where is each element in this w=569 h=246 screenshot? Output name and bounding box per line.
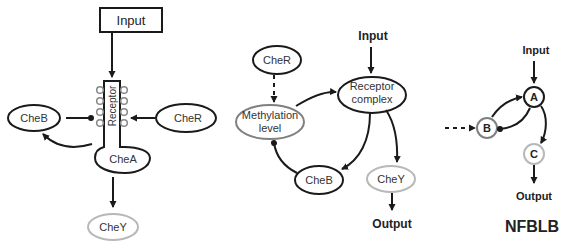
a-to-c-edge [541, 106, 546, 143]
panel-1: Input Receptor CheA CheB CheR [8, 8, 216, 240]
output-label-2: Output [372, 217, 411, 231]
cher-node-2: CheR [253, 46, 301, 74]
a-inhibit-b-edge [500, 108, 530, 129]
receptor-label: Receptor [107, 85, 118, 126]
receptor-label-2a: Receptor [350, 80, 395, 92]
b-to-a-edge [492, 97, 522, 117]
methylation-label-b: level [259, 122, 282, 134]
cher-label: CheR [174, 112, 202, 124]
output-label-3: Output [516, 190, 552, 202]
cheb-node: CheB [8, 105, 60, 131]
nfblb-title: NFBLB [505, 218, 559, 235]
cheb-label-2: CheB [305, 174, 333, 186]
receptor: Receptor CheA [95, 81, 150, 173]
node-b-label: B [483, 122, 491, 134]
chey-label: CheY [99, 221, 127, 233]
cheb-inhibit-methylation-edge [274, 143, 297, 173]
chemotaxis-diagram: Input Receptor CheA CheB CheR [0, 0, 569, 246]
input-label-2: Input [358, 29, 387, 43]
methylation-label-a: Methylation [242, 109, 298, 121]
receptor-to-chey-edge [386, 110, 397, 162]
input-label-3: Input [523, 44, 550, 56]
chey-label-2: CheY [377, 173, 405, 185]
chey-node-2: CheY [367, 166, 415, 192]
receptor-to-cheb-edge [342, 113, 370, 169]
node-c: C [524, 144, 544, 164]
receptor-label-2b: complex [352, 93, 393, 105]
chea-to-cheb-edge [43, 134, 92, 147]
panel-3: Input A B C Output NFBLB [445, 44, 559, 235]
panel-2: Input CheR Receptor complex Methylation … [236, 29, 415, 231]
node-b: B [477, 118, 497, 138]
node-a: A [524, 87, 544, 107]
input-label: Input [117, 13, 146, 28]
cher-node: CheR [156, 104, 216, 132]
chea-label: CheA [109, 153, 137, 165]
chey-node: CheY [88, 214, 138, 240]
receptor-complex-node: Receptor complex [338, 77, 406, 113]
cher-label-2: CheR [263, 54, 291, 66]
methylation-node: Methylation level [236, 105, 304, 139]
input-box: Input [100, 8, 162, 32]
cheb-label: CheB [20, 112, 48, 124]
node-c-label: C [530, 148, 538, 160]
methylation-to-receptor-edge [296, 92, 336, 106]
node-a-label: A [530, 91, 538, 103]
cheb-node-2: CheB [295, 166, 343, 194]
